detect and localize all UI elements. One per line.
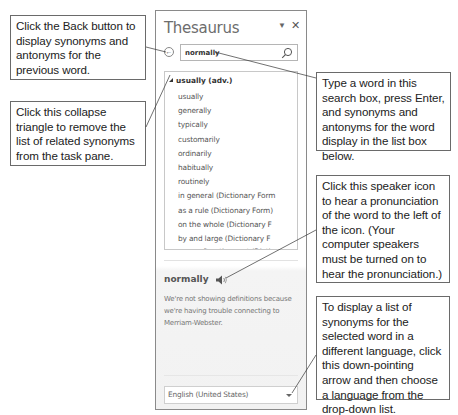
definition-message: We're not showing definitions because we…: [164, 293, 304, 329]
chevron-down-icon[interactable]: [286, 394, 292, 397]
synonym-list-box[interactable]: usually (adv.) usually generally typical…: [164, 71, 298, 250]
synonym-item[interactable]: by and large (Dictionary F: [178, 232, 275, 246]
synonym-item[interactable]: on the whole (Dictionary F: [178, 218, 275, 232]
synonym-group-heading[interactable]: usually (adv.): [169, 76, 232, 85]
callout-back-text: Click the Back button to display synonym…: [16, 19, 135, 76]
dropdown-triangle-icon[interactable]: ▼: [278, 21, 286, 30]
synonym-item[interactable]: in general (Dictionary Form: [178, 189, 275, 203]
speaker-icon[interactable]: [216, 275, 228, 285]
language-selected: English (United States): [168, 390, 248, 399]
callout-search-box: Type a word in this search box, press En…: [316, 72, 451, 151]
callout-speaker-text: Click this speaker icon to hear a pronun…: [322, 179, 442, 280]
callout-language-text: To display a list of synonyms for the se…: [322, 300, 441, 415]
synonym-list: usually generally typically customarily …: [178, 90, 275, 250]
search-icon[interactable]: [281, 47, 293, 59]
synonym-item[interactable]: typically: [178, 118, 275, 132]
synonym-item[interactable]: customarily: [178, 133, 275, 147]
back-arrow-icon: ←: [166, 48, 173, 55]
callout-back-button: Click the Back button to display synonym…: [10, 15, 146, 80]
search-input[interactable]: [185, 47, 275, 59]
pane-title: Thesaurus: [164, 19, 239, 37]
definition-word: normally: [164, 274, 209, 284]
language-dropdown[interactable]: English (United States): [164, 386, 298, 404]
divider: [164, 260, 298, 261]
callout-language-arrow: To display a list of synonyms for the se…: [316, 296, 450, 400]
callout-search-text: Type a word in this search box, press En…: [322, 76, 445, 162]
synonym-item[interactable]: generally: [178, 104, 275, 118]
synonym-item[interactable]: habitually: [178, 161, 275, 175]
back-button[interactable]: ←: [164, 47, 174, 57]
synonym-item[interactable]: ordinarily: [178, 147, 275, 161]
search-box[interactable]: [180, 44, 298, 61]
thesaurus-pane: Thesaurus ▼ ✕ ← usually (adv.) usually g…: [155, 10, 307, 410]
close-icon[interactable]: ✕: [291, 19, 300, 32]
synonym-item[interactable]: routinely: [178, 175, 275, 189]
synonym-item[interactable]: more often than not (Dictio: [178, 246, 275, 250]
synonym-item[interactable]: as a rule (Dictionary Form): [178, 204, 275, 218]
collapse-triangle-icon[interactable]: [169, 78, 173, 82]
divider: [164, 375, 298, 376]
synonym-item[interactable]: usually: [178, 90, 275, 104]
synonym-group-label: usually (adv.): [176, 76, 232, 85]
callout-collapse-text: Click this collapse triangle to remove t…: [16, 105, 135, 162]
callout-collapse-triangle: Click this collapse triangle to remove t…: [10, 101, 146, 166]
callout-speaker-icon: Click this speaker icon to hear a pronun…: [316, 175, 450, 283]
